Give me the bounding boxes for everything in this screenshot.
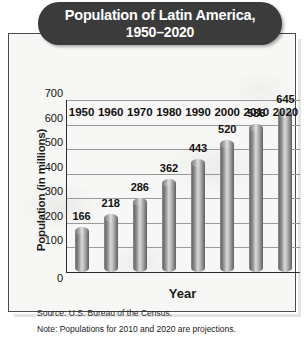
x-tick-label: 1960: [98, 106, 124, 118]
x-tick-label: 1990: [185, 106, 211, 118]
bar: 218: [104, 218, 118, 272]
chart-title: Population of Latin America, 1950–2020: [38, 2, 282, 45]
x-tick-label: 1980: [156, 106, 182, 118]
bar: 520: [220, 144, 234, 272]
bar: 166: [75, 231, 89, 272]
bar: 645: [278, 114, 292, 272]
bar: 443: [191, 163, 205, 272]
bar: 286: [133, 202, 147, 272]
y-tick-label: 0: [57, 272, 63, 285]
bar-value-label: 443: [189, 142, 207, 154]
chart-title-line-2: 1950–2020: [126, 24, 194, 41]
x-tick-label: 1950: [69, 106, 95, 118]
plot-area: 0100200300400500600700166195021819602861…: [66, 100, 300, 273]
x-tick-label: 2020: [273, 106, 299, 118]
source-note: Source: U.S. Bureau of the Census.: [37, 305, 236, 321]
x-tick-label: 1970: [127, 106, 153, 118]
x-tick-label: 2000: [214, 106, 240, 118]
bar-value-label: 645: [276, 93, 294, 105]
bar-value-label: 286: [131, 181, 149, 193]
x-axis-title: Year: [66, 286, 299, 301]
y-tick-label: 500: [45, 136, 63, 149]
gridline: [67, 100, 300, 101]
y-tick-label: 600: [45, 112, 63, 125]
bar-value-label: 166: [72, 210, 90, 222]
footnotes: Source: U.S. Bureau of the Census. Note:…: [37, 305, 236, 337]
gridline: [67, 125, 300, 126]
y-tick-label: 300: [45, 185, 63, 198]
y-tick-label: 200: [45, 210, 63, 223]
x-tick-label: 2010: [244, 106, 270, 118]
chart-title-line-1: Population of Latin America,: [65, 7, 255, 24]
gridline: [67, 223, 300, 224]
figure-frame: Population (in millions) 010020030040050…: [8, 33, 296, 312]
bar: 362: [162, 183, 176, 272]
bar-value-label: 362: [160, 162, 178, 174]
projection-note: Note: Populations for 2010 and 2020 are …: [37, 321, 236, 337]
bar-value-label: 218: [102, 197, 120, 209]
gridline: [67, 149, 300, 150]
y-tick-label: 700: [45, 87, 63, 100]
bar-value-label: 520: [218, 123, 236, 135]
y-tick-label: 100: [45, 234, 63, 247]
bar: 586: [249, 128, 263, 272]
gridline: [67, 247, 300, 248]
gridline: [67, 174, 300, 175]
y-tick-label: 400: [45, 161, 63, 174]
